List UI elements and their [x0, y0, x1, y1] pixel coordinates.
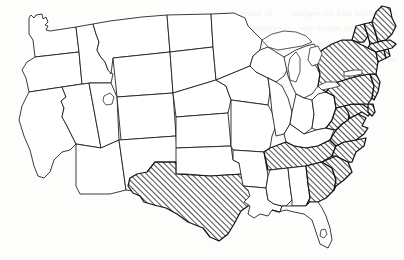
us-state-map-figure: the nation and its regions in many of th… — [0, 0, 404, 260]
state-ND[interactable] — [167, 14, 213, 52]
state-KS[interactable] — [176, 113, 231, 148]
state-AZ[interactable] — [76, 140, 126, 194]
state-WY[interactable] — [113, 52, 173, 97]
states-layer — [19, 6, 396, 248]
state-MO[interactable] — [231, 100, 276, 152]
state-WA[interactable] — [29, 14, 79, 57]
state-GA[interactable] — [306, 162, 336, 206]
state-MS[interactable] — [266, 168, 292, 206]
state-FL[interactable] — [272, 202, 332, 248]
us-map-svg — [0, 0, 404, 260]
state-CO[interactable] — [117, 93, 176, 140]
